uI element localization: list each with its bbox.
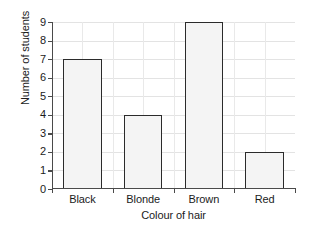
bar-chart-figure: Number of students Colour of hair 012345…	[0, 0, 310, 233]
y-axis-tick	[48, 59, 52, 60]
y-axis-tick-label: 6	[4, 72, 46, 83]
y-axis-tick-label: 5	[4, 91, 46, 102]
x-axis-tick	[295, 189, 296, 193]
y-axis-tick	[48, 152, 52, 153]
y-axis-tick-label: 2	[4, 146, 46, 157]
y-axis-tick-label: 1	[4, 165, 46, 176]
y-axis-tick-label: 8	[4, 35, 46, 46]
y-axis-tick-label: 3	[4, 128, 46, 139]
x-axis-category-label: Red	[234, 193, 295, 205]
y-axis-tick-label: 9	[4, 17, 46, 28]
x-axis-category-label: Blonde	[113, 193, 174, 205]
x-axis-category-label: Brown	[174, 193, 235, 205]
y-axis-tick	[48, 170, 52, 171]
y-axis-tick	[48, 78, 52, 79]
x-axis-tick	[52, 189, 53, 193]
y-axis-tick	[48, 41, 52, 42]
y-axis-tick	[48, 133, 52, 134]
x-axis-category-label: Black	[52, 193, 113, 205]
y-axis-tick	[48, 22, 52, 23]
y-axis-tick-label: 4	[4, 109, 46, 120]
y-axis-tick	[48, 96, 52, 97]
y-axis-tick-label: 7	[4, 54, 46, 65]
y-axis-tick-label: 0	[4, 184, 46, 195]
y-axis-tick	[48, 115, 52, 116]
